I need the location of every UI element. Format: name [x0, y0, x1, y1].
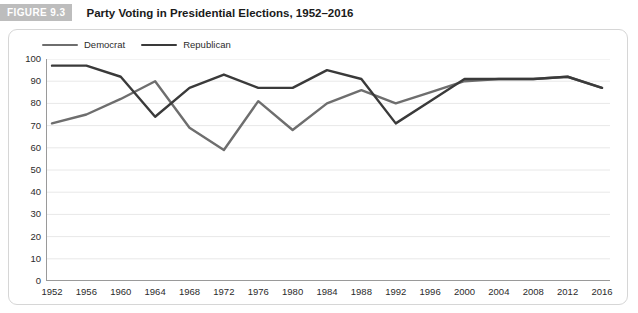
y-axis-tick-label: 30	[30, 209, 41, 219]
x-axis-tick-label: 2008	[523, 286, 544, 297]
legend-label: Democrat	[84, 40, 125, 50]
x-axis-tick-label: 1968	[179, 286, 200, 297]
series-line-democrat	[52, 77, 602, 150]
y-axis-tick-label: 90	[30, 76, 41, 86]
y-axis-tick-label: 70	[30, 121, 41, 131]
y-axis-tick-label: 10	[30, 254, 41, 264]
y-axis-tick-label: 100	[25, 54, 41, 64]
y-axis-tick-label: 20	[30, 232, 41, 242]
x-axis-tick-label: 2012	[557, 286, 578, 297]
figure-container: FIGURE 9.3 Party Voting in Presidential …	[0, 0, 638, 313]
y-axis-tick-label: 80	[30, 98, 41, 108]
x-axis-tick-label: 1984	[316, 286, 337, 297]
legend-swatch-icon	[141, 44, 177, 47]
y-axis-tick-label: 0	[36, 276, 41, 286]
chart-legend: DemocratRepublican	[42, 40, 231, 50]
x-axis-tick-label: 1988	[351, 286, 372, 297]
y-axis-tick-label: 50	[30, 165, 41, 175]
x-axis-tick-label: 2004	[488, 286, 509, 297]
page-title: Party Voting in Presidential Elections, …	[86, 7, 353, 19]
figure-badge: FIGURE 9.3	[0, 4, 72, 21]
y-axis-labels: 0102030405060708090100	[14, 59, 41, 281]
x-axis-tick-label: 1952	[41, 286, 62, 297]
x-axis-tick-label: 1956	[76, 286, 97, 297]
y-axis-tick-label: 60	[30, 143, 41, 153]
x-axis-tick-label: 2000	[454, 286, 475, 297]
x-axis-tick-label: 1960	[110, 286, 131, 297]
x-axis-tick-label: 1976	[248, 286, 269, 297]
x-axis-tick-label: 1980	[282, 286, 303, 297]
y-axis-tick-label: 40	[30, 187, 41, 197]
legend-label: Republican	[183, 40, 231, 50]
figure-header: FIGURE 9.3 Party Voting in Presidential …	[0, 3, 353, 22]
x-axis-tick-label: 1964	[145, 286, 166, 297]
x-axis-tick-label: 2016	[591, 286, 612, 297]
legend-item-republican: Republican	[141, 40, 231, 50]
legend-swatch-icon	[42, 44, 78, 47]
plot-area	[46, 59, 610, 281]
legend-item-democrat: Democrat	[42, 40, 125, 50]
line-chart-svg	[46, 59, 610, 281]
series-line-republican	[52, 66, 602, 124]
x-axis-tick-label: 1972	[213, 286, 234, 297]
x-axis-labels: 1952195619601964196819721976198019841988…	[46, 286, 610, 300]
x-axis-tick-label: 1996	[420, 286, 441, 297]
x-axis-tick-label: 1992	[385, 286, 406, 297]
